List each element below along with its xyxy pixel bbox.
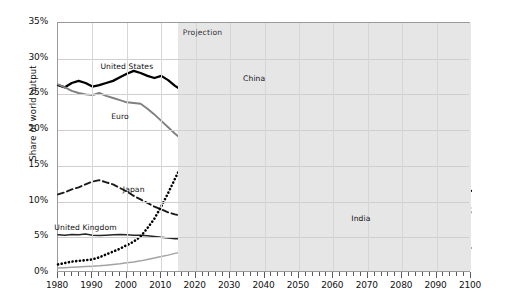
minor-tick-2008 [153,272,154,276]
minor-tick-2036 [250,272,251,276]
gridline-y-15 [58,166,469,167]
gridline-y-5 [58,237,469,238]
major-tick-2080 [401,272,402,278]
y-tick-label-5: 5% [14,230,48,240]
minor-tick-1986 [78,272,79,276]
minor-tick-1982 [64,272,65,276]
chart-figure: Share of world output 35%30%25%20%15%10%… [0,0,506,302]
minor-tick-2072 [374,272,375,276]
projection-shaded-region [178,23,471,271]
major-tick-2050 [298,272,299,278]
gridline-x-2020 [196,23,197,271]
major-tick-2090 [436,272,437,278]
minor-tick-2042 [270,272,271,276]
series-label-india: India [351,214,370,223]
y-tick-label-30: 30% [14,52,48,62]
gridline-y-20 [58,130,469,131]
minor-tick-2074 [381,272,382,276]
minor-tick-2052 [305,272,306,276]
gridline-y-30 [58,59,469,60]
major-tick-2010 [160,272,161,278]
series-label-united-states: United States [100,62,153,71]
minor-tick-1988 [85,272,86,276]
minor-tick-1992 [98,272,99,276]
minor-tick-2046 [284,272,285,276]
series-label-euro: Euro [111,112,129,121]
gridline-x-2030 [230,23,231,271]
minor-tick-2054 [312,272,313,276]
y-axis-title: Share of world output [28,23,38,203]
y-tick-label-0: 0% [14,266,48,276]
minor-tick-2092 [442,272,443,276]
minor-tick-2098 [463,272,464,276]
minor-tick-2082 [408,272,409,276]
series-label-united-kingdom: United Kingdom [54,223,116,232]
minor-tick-2032 [236,272,237,276]
minor-tick-2078 [394,272,395,276]
gridline-x-2090 [437,23,438,271]
minor-tick-2024 [208,272,209,276]
gridline-x-2080 [402,23,403,271]
minor-tick-2068 [360,272,361,276]
major-tick-2100 [470,272,471,278]
minor-tick-2062 [339,272,340,276]
gridline-x-2070 [368,23,369,271]
gridline-x-2050 [299,23,300,271]
minor-tick-2034 [243,272,244,276]
minor-tick-2014 [174,272,175,276]
major-tick-2040 [264,272,265,278]
minor-tick-2086 [422,272,423,276]
minor-tick-2094 [449,272,450,276]
minor-tick-1998 [119,272,120,276]
series-label-japan: Japan [123,185,145,194]
minor-tick-2088 [429,272,430,276]
projection-label: Projection [183,28,223,37]
minor-tick-2044 [277,272,278,276]
gridline-y-10 [58,202,469,203]
y-tick-label-20: 20% [14,123,48,133]
gridline-x-1990 [92,23,93,271]
minor-tick-2038 [257,272,258,276]
minor-tick-2064 [346,272,347,276]
gridline-x-2040 [265,23,266,271]
plot-area: United StatesEuroJapanUnited KingdomChin… [57,22,470,272]
major-tick-2070 [367,272,368,278]
y-tick-label-15: 15% [14,159,48,169]
major-tick-2020 [195,272,196,278]
minor-tick-2016 [181,272,182,276]
y-tick-label-25: 25% [14,87,48,97]
major-tick-2000 [126,272,127,278]
major-tick-2030 [229,272,230,278]
y-tick-label-35: 35% [14,16,48,26]
minor-tick-2004 [140,272,141,276]
gridline-x-2000 [127,23,128,271]
minor-tick-2018 [188,272,189,276]
minor-tick-2056 [319,272,320,276]
x-tick-label-2100: 2100 [450,280,490,290]
minor-tick-2002 [133,272,134,276]
major-tick-1990 [91,272,92,278]
minor-tick-2096 [456,272,457,276]
minor-tick-2066 [353,272,354,276]
minor-tick-2006 [146,272,147,276]
minor-tick-1996 [112,272,113,276]
minor-tick-2058 [325,272,326,276]
major-tick-1980 [57,272,58,278]
minor-tick-1994 [105,272,106,276]
gridline-x-2010 [161,23,162,271]
minor-tick-2076 [387,272,388,276]
major-tick-2060 [332,272,333,278]
minor-tick-2048 [291,272,292,276]
gridline-x-2060 [333,23,334,271]
minor-tick-2012 [167,272,168,276]
minor-tick-2084 [415,272,416,276]
minor-tick-2026 [215,272,216,276]
y-tick-label-10: 10% [14,195,48,205]
minor-tick-1984 [71,272,72,276]
minor-tick-2028 [222,272,223,276]
series-label-china: China [243,74,265,83]
minor-tick-2022 [202,272,203,276]
gridline-y-25 [58,94,469,95]
